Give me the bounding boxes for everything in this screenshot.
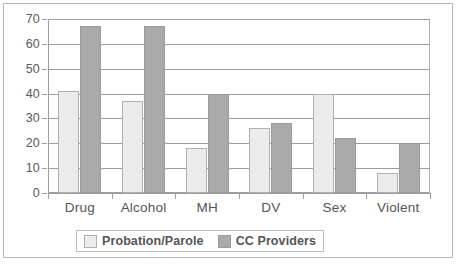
category-label-alcohol: Alcohol — [112, 200, 176, 215]
y-tick-label: 20 — [26, 136, 40, 150]
bar-mh-probation-parole — [186, 148, 207, 193]
legend-swatch-icon — [218, 235, 231, 248]
category-label-dv: DV — [239, 200, 303, 215]
legend-swatch-icon — [84, 235, 97, 248]
y-tick-mark — [42, 118, 47, 119]
category-tick — [48, 193, 49, 199]
category-label-sex: Sex — [303, 200, 367, 215]
y-tick-mark — [42, 69, 47, 70]
bar-dv-probation-parole — [249, 128, 270, 193]
y-tick-label: 40 — [26, 87, 40, 101]
bar-alcohol-probation-parole — [122, 101, 143, 193]
y-tick-label: 30 — [26, 111, 40, 125]
legend-item-cc-providers[interactable]: CC Providers — [218, 234, 316, 248]
category-labels: DrugAlcoholMHDVSexViolent — [48, 200, 430, 215]
bar-alcohol-cc-providers — [144, 26, 165, 193]
category-label-drug: Drug — [48, 200, 112, 215]
bar-group — [239, 19, 303, 193]
bar-group — [366, 19, 430, 193]
category-tick — [430, 193, 431, 199]
category-tick — [366, 193, 367, 199]
y-tick-label: 60 — [26, 37, 40, 51]
y-tick-mark — [42, 94, 47, 95]
y-tick-mark — [42, 143, 47, 144]
y-tick-label: 70 — [26, 12, 40, 26]
chart-legend: Probation/ParoleCC Providers — [76, 230, 324, 252]
chart-frame: 010203040506070 DrugAlcoholMHDVSexViolen… — [3, 3, 453, 258]
legend-item-probation-parole[interactable]: Probation/Parole — [84, 234, 204, 248]
category-label-mh: MH — [175, 200, 239, 215]
bar-drug-probation-parole — [58, 91, 79, 193]
category-tick — [175, 193, 176, 199]
category-tick — [303, 193, 304, 199]
y-tick-label: 0 — [33, 186, 40, 200]
legend-label: Probation/Parole — [102, 234, 204, 248]
bar-group — [112, 19, 176, 193]
legend-label: CC Providers — [236, 234, 316, 248]
y-tick-label: 50 — [26, 62, 40, 76]
bar-violent-cc-providers — [399, 143, 420, 193]
y-tick-label: 10 — [26, 161, 40, 175]
category-tick — [239, 193, 240, 199]
bar-violent-probation-parole — [377, 173, 398, 193]
bar-drug-cc-providers — [80, 26, 101, 193]
bar-dv-cc-providers — [271, 123, 292, 193]
bar-group — [48, 19, 112, 193]
bar-sex-cc-providers — [335, 138, 356, 193]
bar-mh-cc-providers — [208, 94, 229, 193]
y-tick-mark — [42, 19, 47, 20]
category-tick — [112, 193, 113, 199]
category-label-violent: Violent — [366, 200, 430, 215]
bar-group — [175, 19, 239, 193]
category-ticks — [48, 193, 430, 200]
y-tick-mark — [42, 193, 47, 194]
y-tick-mark — [42, 44, 47, 45]
bar-group — [303, 19, 367, 193]
bar-sex-probation-parole — [313, 94, 334, 193]
plot-wrapper: 010203040506070 — [48, 19, 430, 193]
bars-layer — [48, 19, 430, 193]
y-tick-mark — [42, 168, 47, 169]
